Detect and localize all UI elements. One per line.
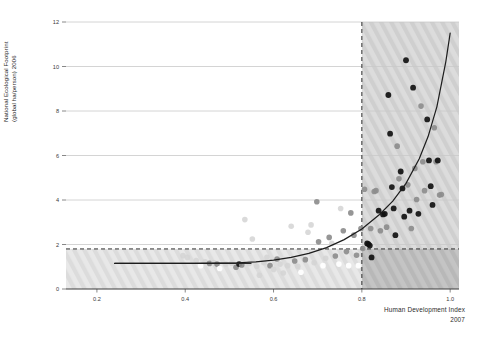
quadrant-high-hdi-unsustainable — [362, 22, 459, 249]
scatter-point — [369, 255, 375, 261]
scatter-point — [424, 117, 430, 123]
y-axis-ticks: 024681012 — [53, 19, 66, 292]
scatter-point — [223, 261, 229, 267]
x-tick-label: 0.4 — [181, 296, 189, 302]
y-axis-label-line1: National Ecological Footprint — [2, 42, 10, 122]
scatter-point — [387, 131, 393, 137]
scatter-point — [323, 255, 329, 261]
scatter-point — [407, 208, 413, 214]
scatter-point — [285, 263, 291, 269]
x-tick-label: 1.0 — [446, 296, 454, 302]
scatter-point — [185, 255, 191, 261]
scatter-point — [422, 188, 428, 194]
y-tick-label: 10 — [53, 64, 59, 70]
scatter-point — [410, 85, 416, 91]
scatter-point — [398, 169, 404, 175]
y-tick-label: 0 — [56, 286, 59, 292]
scatter-point — [308, 222, 314, 228]
scatter-point — [333, 253, 339, 259]
x-axis-label: Human Development Index 2007 — [384, 305, 465, 324]
scatter-point — [271, 267, 277, 273]
scatter-point — [426, 157, 432, 163]
scatter-point — [368, 226, 374, 232]
scatter-point — [354, 252, 360, 258]
scatter-point — [295, 264, 301, 270]
scatter-point — [292, 258, 298, 264]
scatter-point — [305, 229, 311, 235]
scatter-point — [250, 236, 256, 242]
scatter-point — [403, 57, 409, 63]
scatter-point — [393, 232, 399, 238]
scatter-point — [298, 270, 304, 276]
scatter-point — [193, 258, 199, 264]
y-tick-label: 4 — [56, 197, 59, 203]
scatter-point — [356, 263, 362, 269]
scatter-point — [254, 264, 260, 270]
quadrant-sustainable-development — [362, 249, 459, 289]
scatter-point — [346, 263, 352, 269]
scatter-point — [431, 125, 437, 131]
scatter-point — [420, 159, 426, 165]
scatter-point — [439, 192, 445, 198]
scatter-point — [338, 206, 344, 212]
y-tick-label: 12 — [53, 19, 59, 25]
scatter-point — [316, 239, 322, 245]
scatter-point — [378, 228, 384, 234]
scatter-point — [384, 224, 390, 230]
scatter-point — [373, 188, 379, 194]
scatter-point — [415, 211, 421, 217]
scatter-point — [396, 176, 402, 182]
y-axis-label-wrap: National Ecological Footprint (global ha… — [2, 14, 46, 134]
y-axis-label-line2: (global ha/person) 2006 — [10, 42, 18, 122]
scatter-point — [348, 210, 354, 216]
y-tick-label: 6 — [56, 153, 59, 159]
x-tick-label: 0.8 — [358, 296, 366, 302]
scatter-point — [435, 157, 441, 163]
y-axis-label: National Ecological Footprint (global ha… — [2, 42, 18, 122]
scatter-point — [326, 235, 332, 241]
x-tick-label: 0.6 — [270, 296, 278, 302]
scatter-point — [264, 255, 270, 261]
scatter-point — [314, 199, 320, 205]
scatter-point — [409, 226, 415, 232]
scatter-point — [303, 257, 309, 263]
scatter-point — [428, 183, 434, 189]
scatter-point — [336, 261, 342, 267]
scatter-point — [341, 228, 347, 234]
scatter-point — [430, 202, 436, 208]
x-axis-label-year: 2007 — [384, 315, 465, 325]
scatter-point — [362, 187, 368, 193]
scatter-point — [242, 217, 248, 223]
y-tick-label: 2 — [56, 242, 59, 248]
scatter-point — [217, 266, 223, 272]
scatter-point — [394, 143, 400, 149]
scatter-point — [257, 272, 263, 278]
scatter-point — [391, 206, 397, 212]
scatter-point — [389, 184, 395, 190]
scatter-point — [385, 92, 391, 98]
x-axis-ticks: 0.20.40.60.81.0 — [93, 289, 454, 302]
scatter-point — [288, 223, 294, 229]
x-tick-label: 0.2 — [93, 296, 101, 302]
scatter-point — [344, 249, 350, 255]
quadrant-low-hdi-sustainable — [66, 249, 362, 289]
scatter-point — [401, 214, 407, 220]
ecological-footprint-scatter-chart: 024681012 0.20.40.60.81.0 National Ecolo… — [0, 0, 477, 341]
x-axis-label-main: Human Development Index — [384, 305, 465, 315]
scatter-point — [311, 260, 317, 266]
plot-canvas: 024681012 0.20.40.60.81.0 — [0, 0, 477, 341]
scatter-point — [277, 261, 283, 267]
scatter-point — [280, 270, 286, 276]
scatter-point — [367, 243, 373, 249]
scatter-point — [414, 197, 420, 203]
scatter-point — [418, 103, 424, 109]
scatter-point — [320, 263, 326, 269]
scatter-point — [360, 246, 366, 252]
y-tick-label: 8 — [56, 108, 59, 114]
